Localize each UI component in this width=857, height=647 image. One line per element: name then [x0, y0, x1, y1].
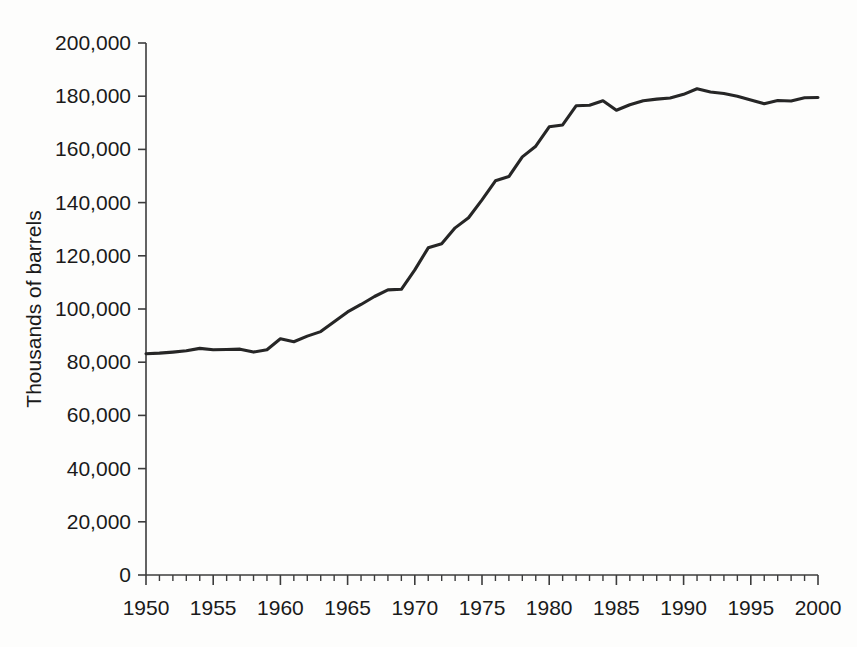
x-tick-label: 2000: [795, 596, 842, 619]
y-tick-label: 120,000: [55, 244, 131, 267]
x-tick-label: 1995: [727, 596, 774, 619]
data-series-line: [146, 89, 818, 354]
y-tick-label: 0: [119, 563, 131, 586]
y-axis-title: Thousands of barrels: [22, 210, 45, 407]
x-tick-label: 1950: [123, 596, 170, 619]
x-tick-label: 1975: [459, 596, 506, 619]
y-axis-tick-labels: 020,00040,00060,00080,000100,000120,0001…: [55, 31, 131, 586]
x-tick-label: 1980: [526, 596, 573, 619]
y-tick-label: 80,000: [67, 350, 131, 373]
y-tick-label: 200,000: [55, 31, 131, 54]
line-chart-figure: 020,00040,00060,00080,000100,000120,0001…: [0, 0, 857, 647]
y-tick-label: 140,000: [55, 191, 131, 214]
x-tick-label: 1970: [391, 596, 438, 619]
y-axis-tick-marks: [138, 43, 146, 575]
y-tick-label: 40,000: [67, 457, 131, 480]
y-tick-label: 160,000: [55, 137, 131, 160]
x-tick-label: 1955: [190, 596, 237, 619]
x-tick-label: 1960: [257, 596, 304, 619]
y-tick-label: 100,000: [55, 297, 131, 320]
x-axis-tick-marks: [146, 575, 818, 585]
x-axis-tick-labels: 1950195519601965197019751980198519901995…: [123, 596, 842, 619]
x-tick-label: 1985: [593, 596, 640, 619]
chart-canvas: 020,00040,00060,00080,000100,000120,0001…: [0, 0, 857, 647]
y-tick-label: 60,000: [67, 403, 131, 426]
y-tick-label: 20,000: [67, 510, 131, 533]
x-tick-label: 1990: [660, 596, 707, 619]
y-tick-label: 180,000: [55, 84, 131, 107]
x-tick-label: 1965: [324, 596, 371, 619]
